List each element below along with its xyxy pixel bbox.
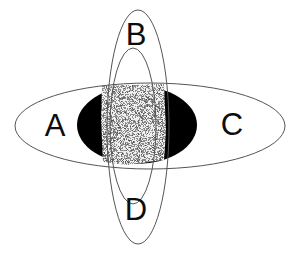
center-noise-patch: [98, 82, 170, 168]
region-label-a: A: [45, 108, 66, 143]
region-label-b: B: [126, 17, 147, 52]
region-label-d: D: [125, 192, 147, 227]
venn-diagram-canvas: A B C D: [0, 0, 302, 256]
region-label-c: C: [221, 107, 243, 142]
venn-diagram-svg: A B C D: [0, 0, 302, 256]
